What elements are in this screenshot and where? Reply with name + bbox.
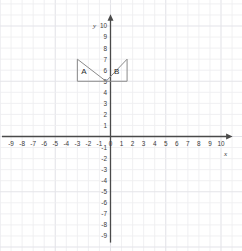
x-tick-label: 5 — [164, 140, 168, 147]
x-tick-label: -5 — [52, 140, 58, 147]
y-tick-label: -2 — [101, 155, 107, 162]
y-tick-label: 10 — [100, 22, 108, 29]
y-tick-label: -7 — [101, 210, 107, 217]
x-tick-label: 6 — [175, 140, 179, 147]
x-tick-label: 9 — [208, 140, 212, 147]
y-tick-label: -6 — [101, 199, 107, 206]
y-tick-label: 4 — [103, 89, 107, 96]
x-tick-label: 2 — [131, 140, 135, 147]
x-tick-label: 1 — [120, 140, 124, 147]
axis-titles: xy — [92, 22, 228, 157]
x-tick-label: 0 — [109, 140, 113, 147]
x-tick-label: -9 — [8, 140, 14, 147]
shape-label-a: A — [81, 67, 87, 76]
tick-labels: -9-8-7-6-5-4-3-2-10123456789101098765432… — [8, 22, 225, 239]
shape-labels: AB — [81, 67, 119, 76]
y-tick-label: -5 — [101, 188, 107, 195]
x-tick-label: 8 — [197, 140, 201, 147]
grid-lines — [0, 0, 242, 251]
y-tick-label: -8 — [101, 221, 107, 228]
x-tick-label: -8 — [19, 140, 25, 147]
y-tick-label: 1 — [103, 122, 107, 129]
x-tick-label: -3 — [75, 140, 81, 147]
y-tick-label: 2 — [103, 111, 107, 118]
y-tick-label: 9 — [103, 33, 107, 40]
x-axis-title: x — [223, 150, 228, 158]
coordinate-plane-figure: -9-8-7-6-5-4-3-2-10123456789101098765432… — [0, 0, 242, 251]
y-tick-label: -3 — [101, 166, 107, 173]
y-tick-label: -1 — [101, 144, 107, 151]
y-tick-label: -9 — [101, 232, 107, 239]
x-tick-label: 7 — [186, 140, 190, 147]
y-tick-label: 8 — [103, 45, 107, 52]
x-tick-label: -4 — [63, 140, 69, 147]
x-tick-label: 10 — [217, 140, 225, 147]
y-tick-label: -4 — [101, 177, 107, 184]
x-tick-label: -2 — [86, 140, 92, 147]
y-tick-label: 6 — [103, 67, 107, 74]
x-tick-label: -7 — [30, 140, 36, 147]
y-tick-label: 7 — [103, 56, 107, 63]
axes — [2, 14, 233, 242]
shape-label-b: B — [114, 67, 119, 76]
x-tick-label: 3 — [142, 140, 146, 147]
coordinate-plane-svg: -9-8-7-6-5-4-3-2-10123456789101098765432… — [0, 0, 242, 251]
x-tick-label: -6 — [41, 140, 47, 147]
x-tick-label: 4 — [153, 140, 157, 147]
y-tick-label: 3 — [103, 100, 107, 107]
